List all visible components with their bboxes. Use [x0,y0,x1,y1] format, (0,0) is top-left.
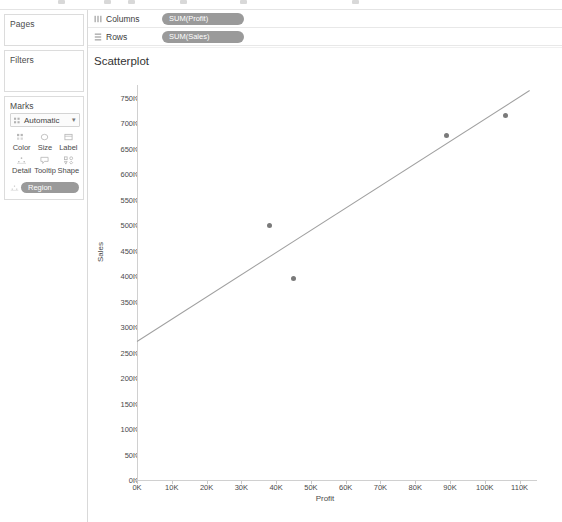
y-tick-mark [134,327,137,328]
tooltip-icon [39,156,50,165]
label-icon [63,133,74,142]
x-tick-mark [450,481,451,484]
marks-button-detail[interactable]: Detail [10,154,33,176]
mark-type-icon [14,117,21,124]
size-icon [39,133,50,142]
y-tick-mark [134,302,137,303]
mark-type-label: Automatic [24,116,72,125]
pages-card[interactable]: Pages [4,14,84,46]
trend-line[interactable] [137,90,531,342]
x-axis-line [137,480,537,481]
toolbar-icon[interactable] [180,0,187,4]
shape-icon [63,156,74,165]
marks-detail-pill-row[interactable]: Region [10,181,82,194]
x-tick-mark [207,481,208,484]
rows-shelf-pill[interactable]: SUM(Sales) [162,31,244,43]
toolbar-icon[interactable] [352,0,359,4]
marks-button-label: Color [13,143,31,152]
y-tick-mark [134,200,137,201]
x-tick-mark [137,481,138,484]
filters-card[interactable]: Filters [4,50,84,92]
left-panel: Pages Filters Marks Automatic ▾ [0,10,88,522]
marks-button-size[interactable]: Size [33,131,56,153]
x-tick-mark [276,481,277,484]
toolbar-icon[interactable] [104,0,111,4]
x-tick-mark [172,481,173,484]
toolbar-icon[interactable] [58,0,65,4]
region-pill[interactable]: Region [21,182,79,193]
x-tick-mark [520,481,521,484]
marks-button-label: Size [38,143,53,152]
y-tick-mark [134,455,137,456]
y-tick-mark [134,149,137,150]
plot-area[interactable] [88,48,562,522]
y-tick-mark [134,378,137,379]
marks-button-label: Shape [57,166,79,175]
x-tick-mark [415,481,416,484]
marks-button-label: Tooltip [34,166,56,175]
y-tick-mark [134,123,137,124]
y-tick-mark [134,251,137,252]
columns-shelf[interactable]: Columns SUM(Profit) [88,10,562,28]
y-tick-mark [134,225,137,226]
y-tick-mark [134,98,137,99]
color-icon [16,133,27,142]
x-tick-mark [241,481,242,484]
scatter-point[interactable] [444,133,449,138]
y-tick-mark [134,353,137,354]
mark-type-dropdown[interactable]: Automatic ▾ [10,113,80,127]
top-toolbar [0,0,562,10]
x-tick-mark [380,481,381,484]
marks-card[interactable]: Marks Automatic ▾ Color [4,96,84,200]
marks-button-label[interactable]: Label [57,131,80,153]
pages-card-title: Pages [5,15,83,29]
marks-button-label: Detail [12,166,31,175]
detail-icon [16,156,27,165]
marks-button-tooltip[interactable]: Tooltip [33,154,56,176]
rows-shelf[interactable]: Rows SUM(Sales) [88,28,562,46]
scatter-point[interactable] [267,223,272,228]
columns-icon [94,15,102,23]
toolbar-icon[interactable] [240,0,247,4]
chevron-down-icon[interactable]: ▾ [72,116,76,124]
marks-button-shape[interactable]: Shape [57,154,80,176]
x-tick-mark [485,481,486,484]
y-axis-line [137,85,138,480]
rows-icon [94,33,102,41]
marks-button-color[interactable]: Color [10,131,33,153]
y-tick-mark [134,174,137,175]
scatter-point[interactable] [291,276,296,281]
y-tick-mark [134,276,137,277]
x-tick-mark [311,481,312,484]
x-tick-mark [346,481,347,484]
filters-card-title: Filters [5,51,83,65]
y-tick-mark [134,429,137,430]
y-tick-mark [134,404,137,405]
columns-shelf-label: Columns [106,14,150,24]
marks-card-title: Marks [5,97,83,111]
columns-shelf-pill[interactable]: SUM(Profit) [162,13,244,25]
scatter-point[interactable] [503,113,508,118]
visualization-pane: Scatterplot Sales Profit 0K50K100K150K20… [88,47,562,522]
marks-button-label: Label [59,143,77,152]
toolbar-icon[interactable] [128,0,135,4]
marks-button-grid: Color Size Label [10,131,80,176]
rows-shelf-label: Rows [106,32,150,42]
detail-icon [10,184,19,192]
